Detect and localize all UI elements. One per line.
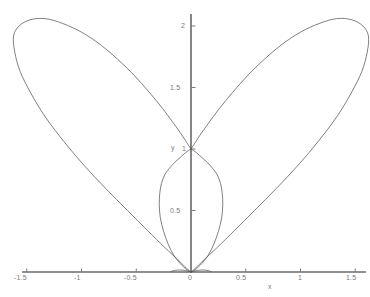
xtick-label: 0.5 (236, 274, 246, 281)
xtick-label: -1.5 (14, 274, 27, 281)
xtick-label: -0.5 (124, 274, 137, 281)
xtick-label: 0 (188, 274, 192, 281)
ytick-label: 2 (181, 22, 185, 29)
ytick-label: 0.5 (170, 207, 180, 214)
ytick-label: 1.5 (170, 84, 180, 91)
ytick-label: 1 (182, 145, 186, 152)
curve-inner-petal-right (191, 149, 223, 272)
y-axis-label: y (171, 144, 175, 151)
xtick-label: -1 (74, 274, 81, 281)
axes-layer (22, 14, 366, 272)
plot-canvas: -1.5 -1 -0.5 0 0.5 1 1.5 0.5 1 1.5 2 x y (0, 0, 370, 297)
xtick-label: 1 (298, 274, 302, 281)
xtick-label: 1.5 (346, 274, 356, 281)
x-axis-label: x (268, 283, 272, 290)
